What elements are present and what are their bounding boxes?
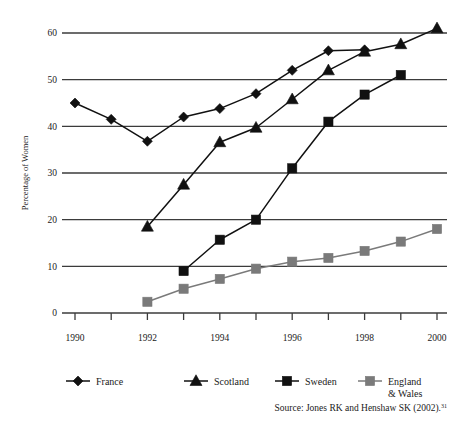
series-sweden-point-1997: [324, 117, 333, 126]
series-scotland-point-1999: [395, 38, 407, 49]
chart-container: 0102030405060 199019921994199619982000 P…: [0, 0, 465, 427]
series-england-and-wales-point-1997: [324, 253, 333, 262]
series-england-and-wales-point-1999: [396, 237, 405, 246]
y-axis-title: Percentage of Women: [20, 135, 30, 210]
x-axis-ticks: [75, 313, 437, 320]
x-tick-label-1996: 1996: [283, 333, 302, 343]
series-sweden-point-1998: [360, 90, 369, 99]
series-france: [70, 45, 370, 146]
y-tick-label-60: 60: [48, 28, 58, 38]
series-france-point-1991: [106, 114, 116, 124]
y-tick-label-20: 20: [48, 215, 58, 225]
series-france-point-1995: [251, 89, 261, 99]
legend-label-1: Scotland: [214, 376, 249, 387]
legend-item-sweden[interactable]: Sweden: [275, 376, 337, 387]
series-england-and-wales-point-1992: [143, 297, 152, 306]
legend-label-3-line1: England: [388, 376, 421, 387]
x-tick-label-2000: 2000: [428, 333, 447, 343]
chart-legend[interactable]: FranceScotlandSwedenEngland& Wales: [66, 375, 422, 399]
x-axis-tick-labels: 199019921994199619982000: [66, 333, 447, 343]
series-england-and-wales-point-1996: [288, 257, 297, 266]
source-note: Source: Jones RK and Henshaw SK (2002).3…: [275, 403, 448, 415]
series-england-and-wales-point-2000: [432, 224, 441, 233]
legend-marker-square: [365, 376, 374, 385]
source-main-text: Source: Jones RK and Henshaw SK (2002).: [275, 403, 442, 414]
series-england-and-wales: [143, 224, 442, 306]
series-sweden-point-1994: [215, 235, 224, 244]
x-tick-label-1992: 1992: [138, 333, 157, 343]
series-france-point-1990: [70, 98, 80, 108]
y-axis-title-text: Percentage of Women: [20, 135, 30, 210]
series-england-and-wales-point-1994: [215, 274, 224, 283]
series-sweden-point-1993: [179, 266, 188, 275]
series-scotland-point-1996: [286, 93, 298, 104]
y-axis-tick-labels: 0102030405060: [48, 28, 58, 318]
series-france-point-1992: [142, 136, 152, 146]
series-england-and-wales-point-1993: [179, 284, 188, 293]
series-england-and-wales-point-1998: [360, 246, 369, 255]
legend-marker-square: [282, 376, 291, 385]
series-france-point-1997: [323, 46, 333, 56]
series-scotland-point-2000: [431, 22, 443, 33]
series-france-point-1994: [215, 104, 225, 114]
legend-item-france[interactable]: France: [66, 376, 124, 387]
source-text: Source: Jones RK and Henshaw SK (2002).3…: [275, 403, 448, 415]
series-france-point-1996: [287, 65, 297, 75]
legend-marker-triangle: [190, 375, 202, 386]
line-chart: 0102030405060 199019921994199619982000 P…: [0, 0, 465, 427]
series-sweden-point-1996: [288, 164, 297, 173]
series-france-line: [75, 50, 365, 141]
x-tick-label-1994: 1994: [210, 333, 229, 343]
series-scotland-point-1997: [322, 64, 334, 75]
legend-item-england[interactable]: England& Wales: [358, 376, 422, 400]
x-tick-label-1998: 1998: [355, 333, 374, 343]
legend-label-2: Sweden: [305, 376, 337, 387]
x-tick-label-1990: 1990: [66, 333, 85, 343]
y-tick-label-50: 50: [48, 75, 58, 85]
y-tick-label-30: 30: [48, 168, 58, 178]
y-tick-label-10: 10: [48, 262, 58, 272]
series-england-and-wales-point-1995: [251, 264, 260, 273]
series-sweden-point-1995: [251, 215, 260, 224]
y-tick-label-0: 0: [52, 308, 57, 318]
y-tick-label-40: 40: [48, 122, 58, 132]
legend-item-scotland[interactable]: Scotland: [184, 375, 249, 387]
legend-label-0: France: [96, 376, 124, 387]
series-scotland-line: [147, 28, 437, 226]
data-series: [70, 22, 443, 306]
source-superscript: 31: [441, 403, 447, 409]
series-france-point-1993: [179, 112, 189, 122]
legend-label-3-line2: & Wales: [388, 388, 422, 399]
legend-marker-diamond: [73, 376, 83, 386]
series-sweden-point-1999: [396, 70, 405, 79]
